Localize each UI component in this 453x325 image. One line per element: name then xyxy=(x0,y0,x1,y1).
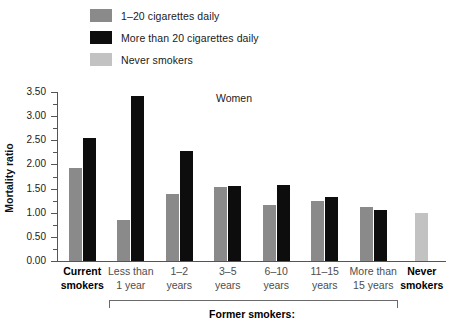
category-label-line2: smokers xyxy=(398,279,447,293)
panel-annotation: Women xyxy=(216,92,252,104)
legend-item: 1–20 cigarettes daily xyxy=(90,6,390,25)
y-axis-minor-tick xyxy=(53,249,57,250)
y-axis-tick-label: 3.50 xyxy=(0,86,46,97)
x-axis-category-label: More than15 years xyxy=(349,265,398,292)
legend-swatch-icon xyxy=(90,53,112,66)
x-axis-category-label: Currentsmokers xyxy=(58,265,107,292)
category-label-line1: 3–5 xyxy=(219,265,237,277)
x-axis-category-label: 1–2years xyxy=(155,265,204,292)
chart-legend: 1–20 cigarettes dailyMore than 20 cigare… xyxy=(90,6,390,72)
y-axis-minor-tick xyxy=(53,152,57,153)
category-label-line1: Less than xyxy=(108,265,154,277)
y-axis-minor-tick xyxy=(53,128,57,129)
bar xyxy=(131,96,144,261)
y-axis-title: Mortality ratio xyxy=(3,118,15,238)
bar-plot-area xyxy=(58,92,446,261)
y-axis-major-tick xyxy=(51,92,57,93)
bar xyxy=(374,210,387,261)
y-axis-major-tick xyxy=(51,140,57,141)
bar xyxy=(117,220,130,261)
x-axis-category-label: Less than1 year xyxy=(107,265,156,292)
legend-swatch-icon xyxy=(90,31,112,44)
legend-item: More than 20 cigarettes daily xyxy=(90,28,390,47)
bar xyxy=(311,201,324,261)
category-label-line2: years xyxy=(204,279,253,293)
bar xyxy=(228,186,241,261)
category-label-line2: years xyxy=(252,279,301,293)
category-label-line1: 6–10 xyxy=(265,265,288,277)
x-axis-category-label: 3–5years xyxy=(204,265,253,292)
bar xyxy=(325,197,338,261)
y-axis-major-tick xyxy=(51,213,57,214)
bar xyxy=(180,151,193,261)
legend-swatch-icon xyxy=(90,9,112,22)
category-label-line2: 15 years xyxy=(349,279,398,293)
category-label-line2: years xyxy=(155,279,204,293)
y-axis-minor-tick xyxy=(53,104,57,105)
category-label-line2: 1 year xyxy=(107,279,156,293)
y-axis-minor-tick xyxy=(53,177,57,178)
bar xyxy=(263,205,276,261)
x-axis-category-label: Neversmokers xyxy=(398,265,447,292)
x-axis-category-label: 11–15years xyxy=(301,265,350,292)
y-axis-major-tick xyxy=(51,116,57,117)
bar xyxy=(69,168,82,261)
bar xyxy=(166,194,179,261)
x-axis-line xyxy=(57,261,446,262)
category-label-line2: years xyxy=(301,279,350,293)
y-axis-major-tick xyxy=(51,164,57,165)
legend-item-label: Never smokers xyxy=(121,54,193,66)
category-label-line1: 11–15 xyxy=(311,265,339,277)
bar xyxy=(415,213,428,261)
former-smokers-bracket-label: Former smokers: xyxy=(109,308,396,320)
x-axis-category-labels: CurrentsmokersLess than1 year1–2years3–5… xyxy=(58,265,446,297)
x-axis-category-label: 6–10years xyxy=(252,265,301,292)
category-label-line1: 1–2 xyxy=(170,265,188,277)
former-smokers-bracket xyxy=(109,300,398,308)
legend-item-label: More than 20 cigarettes daily xyxy=(121,32,259,44)
y-axis-tick-label: 0.00 xyxy=(0,255,46,266)
category-label-line1: Never xyxy=(407,265,436,277)
category-label-line2: smokers xyxy=(58,279,107,293)
y-axis-minor-tick xyxy=(53,201,57,202)
legend-item-label: 1–20 cigarettes daily xyxy=(121,10,219,22)
category-label-line1: More than xyxy=(350,265,397,277)
bar xyxy=(214,187,227,261)
y-axis-major-tick xyxy=(51,189,57,190)
y-axis-major-tick xyxy=(51,261,57,262)
y-axis-minor-tick xyxy=(53,225,57,226)
y-axis-major-tick xyxy=(51,237,57,238)
legend-item: Never smokers xyxy=(90,50,390,69)
bar xyxy=(360,207,373,261)
bar xyxy=(277,185,290,261)
bar xyxy=(83,138,96,261)
category-label-line1: Current xyxy=(63,265,101,277)
